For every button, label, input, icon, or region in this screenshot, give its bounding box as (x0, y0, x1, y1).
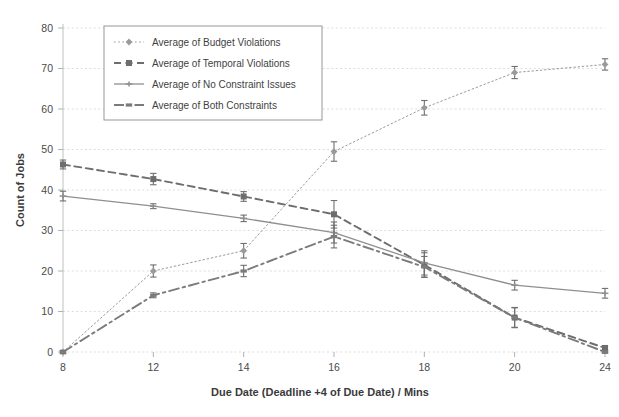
data-point-marker (60, 161, 66, 167)
data-point-marker (511, 316, 517, 319)
y-tick-label: 60 (41, 103, 53, 115)
x-tick-labels: 8121416182024 (60, 361, 611, 373)
data-point-marker (511, 69, 518, 76)
x-tick-label: 12 (147, 361, 159, 373)
series-4 (60, 225, 608, 353)
data-point-marker (126, 60, 132, 66)
data-point-marker (126, 103, 132, 106)
y-tick-label: 70 (41, 62, 53, 74)
legend-group[interactable]: Average of Budget ViolationsAverage of T… (104, 26, 322, 120)
x-tick-label: 18 (418, 361, 430, 373)
data-point-marker (602, 345, 608, 351)
y-tick-label: 30 (41, 224, 53, 236)
y-tick-label: 40 (41, 184, 53, 196)
legend-label: Average of Both Constraints (152, 100, 277, 111)
legend-label: Average of Budget Violations (152, 37, 281, 48)
series-line (63, 164, 605, 347)
data-point-marker (602, 350, 608, 353)
data-point-marker (240, 247, 247, 254)
y-tick-label: 20 (41, 265, 53, 277)
legend-label: Average of Temporal Violations (152, 58, 290, 69)
x-tick-label: 8 (60, 361, 66, 373)
data-point-marker (421, 104, 428, 111)
data-point-marker (331, 211, 337, 217)
x-tick-label: 24 (599, 361, 611, 373)
data-point-marker (60, 350, 66, 353)
y-axis-label: Count of Jobs (14, 153, 26, 227)
data-point-marker (331, 235, 337, 238)
chart-container: 01020304050607080 8121416182024 Average … (0, 0, 619, 417)
y-tick-labels: 01020304050607080 (41, 22, 53, 358)
data-point-marker (241, 193, 247, 199)
legend-label: Average of No Constraint Issues (152, 79, 296, 90)
y-tick-label: 80 (41, 22, 53, 34)
data-point-marker (602, 61, 609, 68)
y-tick-label: 0 (47, 346, 53, 358)
data-point-marker (150, 176, 156, 182)
x-axis-label: Due Date (Deadline +4 of Due Date) / Min… (211, 386, 429, 398)
data-point-marker (421, 265, 427, 268)
series-line (63, 237, 605, 352)
x-tick-label: 16 (328, 361, 340, 373)
y-tick-label: 50 (41, 143, 53, 155)
line-chart-plot: 01020304050607080 8121416182024 Average … (0, 0, 619, 417)
y-tick-label: 10 (41, 305, 53, 317)
data-point-marker (240, 269, 246, 272)
x-tick-label: 14 (238, 361, 250, 373)
data-point-marker (150, 294, 156, 297)
x-tick-label: 20 (509, 361, 521, 373)
